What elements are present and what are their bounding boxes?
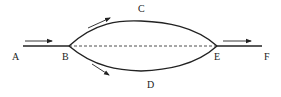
- label-f: F: [264, 51, 270, 62]
- label-e: E: [214, 51, 220, 62]
- label-a: A: [12, 51, 20, 62]
- flow-diagram: A B C D E F: [0, 0, 281, 97]
- label-c: C: [138, 3, 145, 14]
- label-b: B: [62, 51, 69, 62]
- label-d: D: [147, 79, 154, 90]
- upper-branch-curve: [69, 21, 217, 46]
- lower-branch-curve: [69, 46, 217, 71]
